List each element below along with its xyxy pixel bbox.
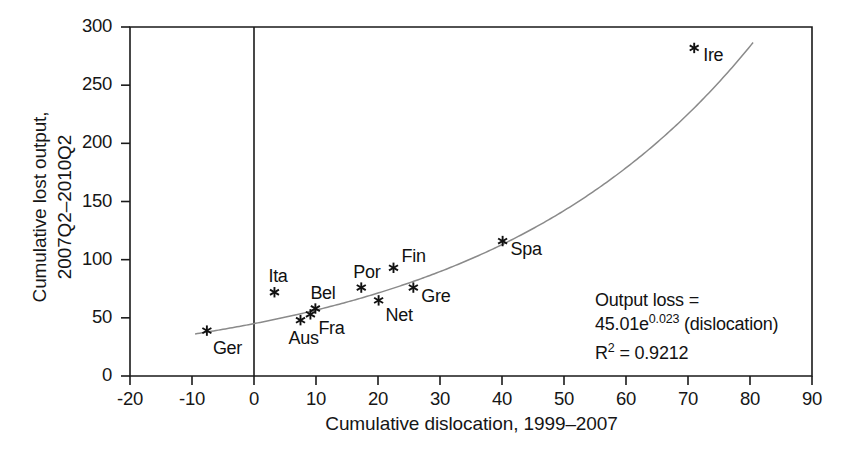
r-squared-symbol: R (595, 343, 608, 363)
data-point-marker (202, 325, 211, 335)
fit-annotation: Output loss = 45.01e0.023 (dislocation) … (595, 288, 778, 365)
data-point-marker (389, 263, 398, 273)
annotation-line-2: 45.01e0.023 (dislocation) (595, 312, 778, 336)
annotation-coefficient: 45.01e (595, 314, 649, 334)
plot-canvas (0, 0, 855, 460)
annotation-exponent: 0.023 (649, 312, 679, 326)
data-point-marker (270, 287, 279, 297)
chart-figure: Cumulative lost output, 2007Q2–2010Q2 Cu… (0, 0, 855, 460)
data-point-marker (409, 282, 418, 292)
data-point-marker (374, 295, 383, 305)
annotation-line-1: Output loss = (595, 288, 778, 312)
data-point-marker (311, 303, 320, 313)
data-point-marker (296, 315, 305, 325)
r-squared-exponent: 2 (608, 341, 615, 355)
annotation-variable: (dislocation) (679, 314, 778, 334)
r-squared-value: = 0.9212 (615, 343, 689, 363)
data-point-marker (498, 236, 507, 246)
data-point-marker (357, 282, 366, 292)
data-point-marker (690, 43, 699, 53)
annotation-line-3: R2 = 0.9212 (595, 341, 778, 365)
